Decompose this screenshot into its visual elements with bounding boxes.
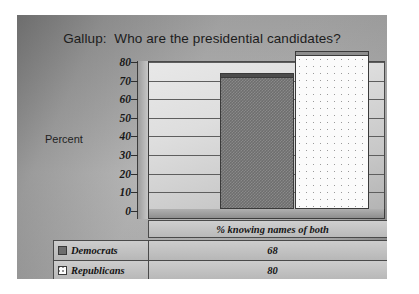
ytick-mark-40 [131, 136, 138, 137]
ytick-label-30: 30 [107, 149, 131, 161]
ytick-mark-20 [131, 174, 138, 175]
ytick-mark-10 [131, 192, 138, 193]
ytick-label-70: 70 [107, 75, 131, 87]
ytick-label-60: 60 [107, 93, 131, 105]
legend-swatch-republicans-icon [58, 266, 67, 275]
series-value-republicans: 80 [267, 265, 278, 276]
ytick-mark-30 [131, 155, 138, 156]
ytick-mark-50 [131, 118, 138, 119]
series-label-republicans: Republicans [71, 265, 125, 276]
table-cell-key-democrats: Democrats [54, 241, 149, 260]
ytick-mark-60 [131, 99, 138, 100]
bar-republicans-face [295, 55, 369, 209]
ytick-label-0: 0 [107, 205, 131, 217]
ytick-label-50: 50 [107, 112, 131, 124]
ytick-label-10: 10 [107, 186, 131, 198]
ytick-label-20: 20 [107, 168, 131, 180]
slide-canvas: Gallup: Who are the presidential candida… [17, 15, 387, 279]
category-axis-strip: % knowing names of both [148, 220, 387, 238]
data-table: Democrats 68 Republicans 80 [53, 240, 387, 279]
bar-republicans [295, 51, 369, 209]
table-cell-value-democrats: 68 [149, 241, 387, 260]
chart-title: Gallup: Who are the presidential candida… [17, 31, 387, 46]
ytick-mark-70 [131, 81, 138, 82]
ytick-mark-0 [131, 211, 138, 212]
chart-floor [148, 209, 385, 219]
ytick-label-40: 40 [107, 130, 131, 142]
ytick-label-80: 80 [107, 56, 131, 68]
category-label: % knowing names of both [216, 224, 329, 235]
legend-swatch-democrats-icon [58, 246, 67, 255]
table-cell-key-republicans: Republicans [54, 261, 149, 279]
y-axis-label: Percent [45, 133, 83, 145]
table-cell-value-republicans: 80 [149, 261, 387, 279]
bar-democrats [220, 73, 294, 209]
series-label-democrats: Democrats [71, 245, 118, 256]
series-value-democrats: 68 [267, 245, 278, 256]
table-row-republicans: Republicans 80 [54, 261, 387, 279]
table-row-democrats: Democrats 68 [54, 241, 387, 261]
ytick-mark-80 [131, 62, 138, 63]
bar-democrats-face [220, 77, 294, 209]
chart-side-wall [137, 61, 149, 219]
plot-area [137, 61, 385, 219]
